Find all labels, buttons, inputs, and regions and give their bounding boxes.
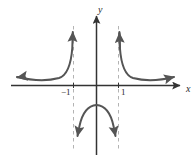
- y-axis-label: y: [98, 5, 102, 15]
- curve-middle-branch-right: [97, 105, 116, 136]
- curve-middle-branch: [78, 105, 97, 136]
- curve-right-branch-head-arrow: [119, 33, 120, 48]
- plot-canvas: [0, 0, 196, 161]
- tick-label-x-pos1: 1: [121, 88, 126, 97]
- curve-left-branch-tail-arrow: [18, 77, 23, 78]
- graph-figure: y x −1 1: [0, 0, 196, 161]
- tick-label-x-neg1: −1: [61, 88, 71, 97]
- curve-left-branch: [17, 32, 73, 80]
- x-axis-label: x: [186, 84, 190, 94]
- curve-right-branch: [119, 32, 174, 80]
